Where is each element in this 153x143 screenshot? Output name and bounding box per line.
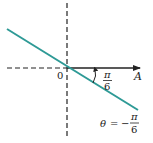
angle-denominator: 6 — [104, 81, 110, 92]
equation-denominator: 6 — [131, 124, 137, 135]
angle-arc-arrow — [93, 69, 96, 83]
angle-numerator: π — [103, 69, 111, 80]
origin-label: 0 — [57, 70, 63, 81]
axis-label-a: A — [133, 70, 142, 83]
polar-diagram: 0 π 6 A θ = − π 6 — [0, 0, 153, 143]
equation-numerator: π — [130, 111, 138, 122]
equation-theta: θ — [100, 118, 106, 129]
equation-minus: − — [121, 118, 129, 129]
equation-equals: = — [110, 118, 118, 129]
theta-line — [7, 29, 138, 110]
